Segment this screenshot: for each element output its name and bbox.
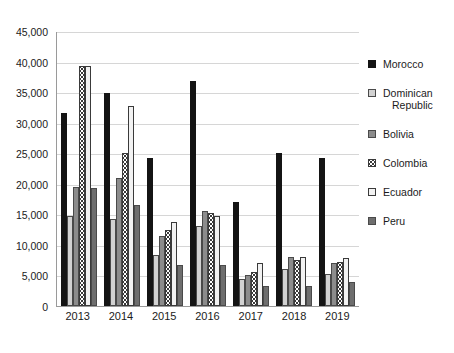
legend-item-bolivia[interactable]: Bolivia: [368, 128, 454, 140]
y-axis-tick-label: 5,000: [22, 270, 48, 282]
legend-swatch-icon: [368, 89, 376, 97]
bar-peru-2013: [91, 188, 97, 306]
x-axis-tick-label: 2014: [99, 310, 142, 330]
bar-peru-2019: [349, 282, 355, 306]
legend-swatch-icon: [368, 188, 376, 196]
plot-area: [56, 32, 359, 307]
chart-legend: MoroccoDominicanRepublicBoliviaColombiaE…: [368, 58, 454, 244]
legend-item-ecuador[interactable]: Ecuador: [368, 186, 454, 198]
bar-group-2014: [100, 32, 143, 306]
legend-label: Colombia: [383, 157, 427, 169]
legend-label: DominicanRepublic: [383, 87, 433, 111]
x-axis-tick-label: 2013: [56, 310, 99, 330]
bar-group-2016: [186, 32, 229, 306]
y-axis-tick-label: 25,000: [16, 148, 48, 160]
bar-group-2018: [273, 32, 316, 306]
legend-label: Ecuador: [383, 186, 422, 198]
y-axis-tick-label: 10,000: [16, 240, 48, 252]
bar-groups: [57, 32, 359, 306]
y-axis-tick-label: 0: [42, 301, 48, 313]
x-axis-tick-label: 2017: [229, 310, 272, 330]
bar-group-2019: [316, 32, 359, 306]
y-axis-tick-label: 45,000: [16, 26, 48, 38]
legend-item-colombia[interactable]: Colombia: [368, 157, 454, 169]
bar-peru-2017: [263, 286, 269, 306]
legend-item-peru[interactable]: Peru: [368, 215, 454, 227]
legend-swatch-icon: [368, 217, 376, 225]
y-axis-tick-label: 40,000: [16, 57, 48, 69]
legend-swatch-icon: [368, 130, 376, 138]
bar-chart: 05,00010,00015,00020,00025,00030,00035,0…: [0, 0, 454, 353]
x-axis-tick-label: 2016: [186, 310, 229, 330]
legend-label: Bolivia: [383, 128, 414, 140]
legend-label: Morocco: [383, 58, 423, 70]
legend-item-dominican-republic[interactable]: DominicanRepublic: [368, 87, 454, 111]
x-axis-tick-label: 2019: [316, 310, 359, 330]
x-axis-tick-label: 2018: [272, 310, 315, 330]
bar-peru-2014: [134, 205, 140, 306]
bar-group-2017: [230, 32, 273, 306]
bar-peru-2015: [177, 265, 183, 306]
bar-group-2013: [57, 32, 100, 306]
y-axis-labels: 05,00010,00015,00020,00025,00030,00035,0…: [0, 32, 52, 307]
x-axis-tick-label: 2015: [143, 310, 186, 330]
x-axis-labels: 2013201420152016201720182019: [56, 310, 359, 330]
bar-group-2015: [143, 32, 186, 306]
legend-label: Peru: [383, 215, 405, 227]
bar-peru-2018: [306, 286, 312, 306]
legend-swatch-icon: [368, 159, 376, 167]
legend-label-line2: Republic: [383, 99, 433, 111]
y-axis-tick-label: 15,000: [16, 209, 48, 221]
y-axis-tick-label: 30,000: [16, 118, 48, 130]
legend-swatch-icon: [368, 60, 376, 68]
y-axis-tick-label: 20,000: [16, 179, 48, 191]
legend-item-morocco[interactable]: Morocco: [368, 58, 454, 70]
y-axis-tick-label: 35,000: [16, 87, 48, 99]
bar-peru-2016: [220, 265, 226, 306]
